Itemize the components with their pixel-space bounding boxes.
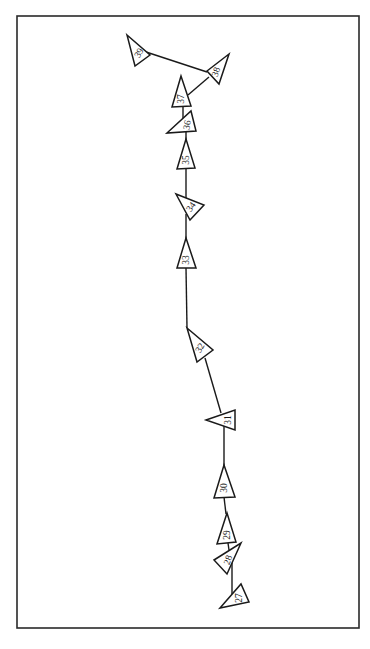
link-32-31 bbox=[205, 358, 221, 413]
link-39-38 bbox=[140, 50, 207, 72]
triangle-node-35: 35 bbox=[177, 139, 195, 169]
node-label: 27 bbox=[234, 593, 244, 603]
triangle-chain-diagram: 27282930313233343536373839 bbox=[0, 0, 370, 649]
triangle-node-32: 32 bbox=[187, 328, 213, 362]
triangle-node-33: 33 bbox=[177, 238, 196, 268]
triangle-node-36: 36 bbox=[167, 111, 196, 133]
node-label: 33 bbox=[181, 255, 191, 265]
link-33-32 bbox=[186, 268, 187, 328]
node-label: 31 bbox=[223, 415, 233, 425]
node-label: 36 bbox=[181, 119, 193, 130]
triangle-node-37: 37 bbox=[172, 76, 191, 107]
triangle-node-39: 39 bbox=[127, 35, 150, 66]
node-label: 35 bbox=[181, 155, 191, 165]
triangle-node-38: 38 bbox=[207, 54, 229, 84]
node-label: 30 bbox=[219, 483, 229, 493]
link-29-28 bbox=[228, 543, 229, 550]
triangle-node-30: 30 bbox=[214, 465, 235, 498]
node-label: 37 bbox=[176, 94, 186, 104]
link-38-37 bbox=[188, 77, 209, 95]
triangle-node-29: 29 bbox=[217, 513, 236, 544]
link-30-29 bbox=[224, 497, 226, 514]
triangle-node-34: 34 bbox=[176, 194, 204, 220]
triangle-node-27: 27 bbox=[220, 584, 249, 608]
diagram-frame bbox=[17, 16, 359, 628]
node-label: 29 bbox=[222, 530, 232, 540]
triangle-nodes: 27282930313233343536373839 bbox=[127, 35, 249, 608]
triangle-node-28: 28 bbox=[214, 543, 241, 574]
